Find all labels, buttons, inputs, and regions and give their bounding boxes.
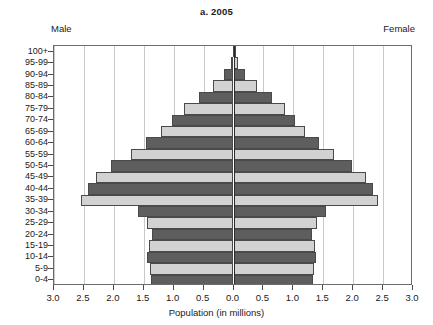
x-axis-tick bbox=[292, 285, 293, 290]
y-axis-tick-label: 70-74 bbox=[0, 114, 48, 124]
y-axis-tick-label: 100+ bbox=[0, 46, 48, 56]
y-axis-tick-label: 75-79 bbox=[0, 103, 48, 113]
female-side-label: Female bbox=[383, 23, 415, 34]
y-axis-tick-label: 10-14 bbox=[0, 251, 48, 261]
x-axis-tick bbox=[173, 285, 174, 290]
y-axis-tick bbox=[48, 142, 53, 143]
y-axis-tick bbox=[48, 222, 53, 223]
y-axis-tick bbox=[48, 108, 53, 109]
y-axis-tick bbox=[48, 154, 53, 155]
male-side-label: Male bbox=[51, 23, 72, 34]
y-axis-tick-label: 20-24 bbox=[0, 229, 48, 239]
x-axis-tick bbox=[412, 285, 413, 290]
y-axis-tick bbox=[48, 279, 53, 280]
y-axis-tick-label: 50-54 bbox=[0, 160, 48, 170]
y-axis-tick bbox=[48, 96, 53, 97]
y-axis-tick-label: 95-99 bbox=[0, 57, 48, 67]
y-axis-labels: 0-45-910-1415-1920-2425-2930-3435-3940-4… bbox=[0, 45, 433, 285]
y-axis-tick bbox=[48, 268, 53, 269]
x-axis-tick-label: 3.0 bbox=[392, 292, 432, 303]
y-axis-tick bbox=[48, 256, 53, 257]
x-axis-title: Population (in millions) bbox=[0, 307, 433, 318]
y-axis-tick bbox=[48, 165, 53, 166]
y-axis-tick bbox=[48, 176, 53, 177]
x-axis-tick bbox=[352, 285, 353, 290]
y-axis-tick bbox=[48, 51, 53, 52]
x-axis-tick bbox=[143, 285, 144, 290]
y-axis-tick bbox=[48, 188, 53, 189]
y-axis-tick-label: 0-4 bbox=[0, 274, 48, 284]
y-axis-tick-label: 85-89 bbox=[0, 80, 48, 90]
y-axis-tick-label: 40-44 bbox=[0, 183, 48, 193]
x-axis-tick bbox=[382, 285, 383, 290]
x-axis-tick bbox=[83, 285, 84, 290]
y-axis-tick bbox=[48, 245, 53, 246]
x-axis-tick bbox=[113, 285, 114, 290]
x-axis-tick bbox=[53, 285, 54, 290]
y-axis-tick-label: 30-34 bbox=[0, 206, 48, 216]
y-axis-tick-label: 35-39 bbox=[0, 194, 48, 204]
y-axis-tick-label: 80-84 bbox=[0, 91, 48, 101]
y-axis-tick bbox=[48, 62, 53, 63]
y-axis-tick bbox=[48, 74, 53, 75]
y-axis-tick bbox=[48, 199, 53, 200]
y-axis-tick bbox=[48, 131, 53, 132]
x-axis-tick bbox=[322, 285, 323, 290]
y-axis-tick-label: 60-64 bbox=[0, 137, 48, 147]
y-axis-tick bbox=[48, 85, 53, 86]
center-axis-line bbox=[234, 46, 235, 284]
population-pyramid-figure: a. 2005 Male Female 0-45-910-1415-1920-2… bbox=[0, 0, 433, 325]
y-axis-tick-label: 15-19 bbox=[0, 240, 48, 250]
y-axis-tick bbox=[48, 211, 53, 212]
y-axis-tick-label: 55-59 bbox=[0, 149, 48, 159]
y-axis-tick bbox=[48, 234, 53, 235]
x-axis-ticks bbox=[53, 285, 412, 291]
y-axis-tick-label: 5-9 bbox=[0, 263, 48, 273]
x-axis-tick bbox=[262, 285, 263, 290]
x-axis-tick bbox=[203, 285, 204, 290]
y-axis-tick-label: 25-29 bbox=[0, 217, 48, 227]
y-axis-tick-label: 65-69 bbox=[0, 126, 48, 136]
chart-title: a. 2005 bbox=[0, 6, 433, 17]
y-axis-tick-label: 90-94 bbox=[0, 69, 48, 79]
x-axis-labels: 3.02.52.01.51.00.50.00.51.01.52.02.53.0 bbox=[0, 292, 433, 304]
y-axis-tick-label: 45-49 bbox=[0, 171, 48, 181]
y-axis-tick bbox=[48, 119, 53, 120]
x-axis-tick bbox=[233, 285, 234, 290]
